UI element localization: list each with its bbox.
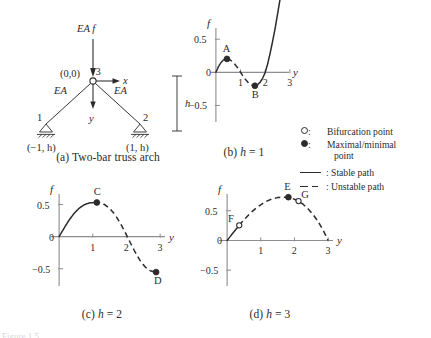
y-tick-label: 0.5 bbox=[37, 200, 50, 211]
node-3-marker bbox=[90, 78, 96, 84]
panel-b-caption-value: = 1 bbox=[249, 146, 264, 158]
maximal-minimal-point-marker bbox=[224, 56, 230, 62]
panel-d-caption-var: h bbox=[266, 308, 272, 320]
legend-colon-0: : bbox=[308, 126, 313, 137]
node-2-label: 2 bbox=[143, 112, 148, 123]
x-tick-label: 1 bbox=[258, 245, 263, 256]
legend-label-line2: point bbox=[327, 150, 431, 162]
legend-label-maximal-minimal-point: Maximal/minimal point bbox=[327, 139, 431, 162]
x-tick-label: 2 bbox=[124, 242, 129, 253]
x-tick-label: 1 bbox=[90, 242, 95, 253]
dashed-line-icon bbox=[300, 181, 326, 193]
y-tick-label: 0.5 bbox=[194, 34, 207, 45]
y-tick-label: −0.5 bbox=[32, 264, 50, 275]
legend-colon-1: : bbox=[308, 139, 313, 150]
solid-line-icon bbox=[300, 167, 326, 179]
y-tick-label: −0.5 bbox=[200, 265, 218, 276]
maximal-minimal-point-marker bbox=[286, 194, 292, 200]
panel-b-caption-label: (b) bbox=[224, 146, 238, 158]
axis-x-arrowhead bbox=[113, 78, 121, 83]
unstable-path-curve bbox=[94, 202, 155, 272]
open-circle-icon: : bbox=[300, 126, 327, 138]
axis-y-arrowhead bbox=[90, 102, 95, 110]
filled-circle-icon: : bbox=[300, 139, 327, 151]
x-axis-label: y bbox=[336, 234, 342, 246]
point-label: E bbox=[284, 181, 290, 192]
support-left-icon bbox=[37, 124, 55, 138]
legend-colon-3: : bbox=[326, 181, 329, 192]
bifurcation-point-marker bbox=[237, 223, 242, 228]
point-label: C bbox=[94, 186, 101, 197]
panel-equilibrium-path-h1: yf123−0.500.5AB (b) h = 1 bbox=[178, 6, 310, 170]
panel-c-caption-var: h bbox=[98, 308, 104, 320]
x-tick-label: 1 bbox=[238, 77, 243, 88]
legend-item-maximal-minimal-point: : Maximal/minimal point bbox=[300, 139, 431, 162]
x-tick-label: 3 bbox=[158, 242, 163, 253]
y-tick-label: 0 bbox=[49, 232, 54, 243]
figure-footnote: Figure 1.5 bbox=[2, 331, 39, 338]
point-label: D bbox=[154, 275, 162, 286]
chart-h1: yf123−0.500.5AB bbox=[178, 6, 310, 150]
axis-y-label: y bbox=[88, 113, 94, 124]
legend-label-stable-path: : Stable path bbox=[326, 167, 431, 179]
legend-item-stable-path: : Stable path bbox=[300, 167, 431, 179]
legend-label-unstable-path: : Unstable path bbox=[326, 181, 431, 193]
stable-path-curve bbox=[59, 202, 94, 236]
point-label: B bbox=[252, 89, 259, 100]
support-right-icon bbox=[131, 124, 149, 138]
figure-legend: : Bifurcation point : Maximal/minimal po… bbox=[300, 126, 431, 204]
panel-equilibrium-path-h2: yf123−0.500.5CD (c) h = 2 bbox=[18, 172, 186, 337]
y-tick-label: 0.5 bbox=[205, 206, 218, 217]
y-axis-label: f bbox=[50, 183, 55, 195]
load-label: EA f bbox=[76, 23, 97, 34]
point-label: A bbox=[223, 43, 231, 54]
panel-c-caption-label: (c) bbox=[82, 308, 95, 320]
legend-label-line1: Maximal/minimal bbox=[327, 139, 396, 150]
y-axis-label: f bbox=[218, 183, 223, 195]
panel-b-caption-var: h bbox=[240, 146, 246, 158]
x-tick-label: 2 bbox=[263, 77, 268, 88]
legend-colon-2: : bbox=[326, 167, 329, 178]
truss-bar-left bbox=[46, 84, 91, 125]
panel-a-caption-label: (a) bbox=[56, 151, 69, 163]
chart-h2: yf123−0.500.5CD bbox=[18, 172, 186, 314]
panel-c-caption: (c) h = 2 bbox=[18, 308, 186, 320]
panel-c-caption-value: = 2 bbox=[107, 308, 122, 320]
point-label: F bbox=[228, 213, 234, 224]
bar-left-stiffness-label: EA bbox=[53, 85, 67, 96]
x-tick-label: 3 bbox=[287, 77, 292, 88]
legend-label-bifurcation-point: Bifurcation point bbox=[327, 126, 431, 138]
panel-b-caption: (b) h = 1 bbox=[178, 146, 310, 158]
origin-coordinate-label: (0,0) bbox=[60, 68, 81, 80]
panel-d-caption-label: (d) bbox=[250, 308, 264, 320]
y-tick-label: 0 bbox=[206, 67, 211, 78]
legend-stable-text: Stable path bbox=[331, 167, 374, 178]
x-tick-label: 3 bbox=[326, 245, 331, 256]
legend-item-bifurcation-point: : Bifurcation point bbox=[300, 126, 431, 138]
panel-d-caption-value: = 3 bbox=[275, 308, 290, 320]
panel-d-caption: (d) h = 3 bbox=[186, 308, 354, 320]
bar-right-stiffness-label: EA bbox=[113, 85, 127, 96]
panel-a-caption-text: Two-bar truss arch bbox=[72, 151, 160, 163]
y-axis-label: f bbox=[207, 17, 212, 29]
x-tick-label: 2 bbox=[292, 245, 297, 256]
maximal-minimal-point-marker bbox=[94, 200, 100, 206]
x-axis-label: y bbox=[292, 66, 298, 78]
legend-item-unstable-path: : Unstable path bbox=[300, 181, 431, 193]
node-1-label: 1 bbox=[37, 112, 42, 123]
y-tick-label: −0.5 bbox=[189, 100, 207, 111]
legend-unstable-text: Unstable path bbox=[331, 181, 384, 192]
y-tick-label: 0 bbox=[217, 235, 222, 246]
x-axis-label: y bbox=[168, 231, 174, 243]
node-3-label: 3 bbox=[96, 66, 101, 77]
